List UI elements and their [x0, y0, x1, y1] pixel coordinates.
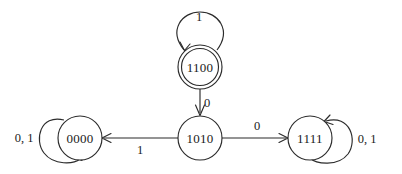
fsm-diagram-canvas: 1 0 1 0 0, 1 0, 1 [0, 0, 402, 174]
state-node-1010[interactable]: 1010 [178, 116, 222, 160]
transition-1010-to-1111-label: 0 [254, 119, 260, 133]
self-loop-1111-label: 0, 1 [358, 132, 377, 146]
transition-1100-to-1010-label: 0 [204, 96, 210, 110]
state-1010-label: 1010 [186, 131, 213, 146]
state-0000-label: 0000 [66, 131, 93, 146]
state-node-1111[interactable]: 1111 [288, 116, 332, 160]
transition-1010-to-0000 [102, 134, 178, 143]
self-loop-1100-label: 1 [196, 10, 202, 24]
state-node-1100[interactable]: 1100 [178, 45, 222, 89]
state-1111-label: 1111 [297, 131, 323, 146]
fsm-diagram: 1 0 1 0 0, 1 0, 1 [0, 0, 402, 174]
self-loop-0000-label: 0, 1 [15, 131, 34, 145]
state-1100-label: 1100 [187, 60, 214, 75]
transition-1010-to-0000-label: 1 [137, 143, 143, 157]
transition-1010-to-1111 [222, 134, 288, 143]
state-node-0000[interactable]: 0000 [58, 116, 102, 160]
